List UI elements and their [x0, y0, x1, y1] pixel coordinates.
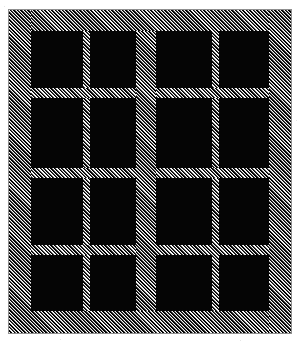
- horizontal-muntin-left-row1: [31, 88, 136, 98]
- paper-speck: [296, 120, 297, 121]
- pane-left-r1c2: [90, 31, 136, 88]
- pane-left-r4c1: [31, 255, 83, 311]
- horizontal-muntin-right-row2: [156, 168, 269, 178]
- pane-left-r2c1: [31, 98, 83, 168]
- horizontal-muntin-right-row1: [156, 88, 269, 98]
- horizontal-muntin-left-row2: [31, 168, 136, 178]
- paper-speck: [4, 6, 5, 7]
- pane-left-r4c2: [90, 255, 136, 311]
- pane-right-r4c2: [219, 255, 269, 311]
- pane-right-r1c2: [219, 31, 269, 88]
- pane-right-r4c1: [156, 255, 212, 311]
- horizontal-muntin-right-row3: [156, 245, 269, 255]
- pane-left-r3c2: [90, 178, 136, 245]
- window-drawing: [0, 0, 301, 343]
- frame-left-stile: [8, 9, 31, 334]
- pane-right-r3c1: [156, 178, 212, 245]
- frame-bottom-rail: [8, 311, 292, 334]
- paper-speck: [60, 339, 61, 340]
- paper-speck: [240, 340, 241, 341]
- pane-right-r3c2: [219, 178, 269, 245]
- pane-right-r2c2: [219, 98, 269, 168]
- pane-right-r1c1: [156, 31, 212, 88]
- horizontal-muntin-left-row3: [31, 245, 136, 255]
- frame-top-rail: [8, 9, 292, 31]
- pane-left-r3c1: [31, 178, 83, 245]
- pane-left-r1c1: [31, 31, 83, 88]
- pane-right-r2c1: [156, 98, 212, 168]
- frame-right-stile: [269, 9, 292, 334]
- pane-left-r2c2: [90, 98, 136, 168]
- center-mullion: [136, 9, 156, 334]
